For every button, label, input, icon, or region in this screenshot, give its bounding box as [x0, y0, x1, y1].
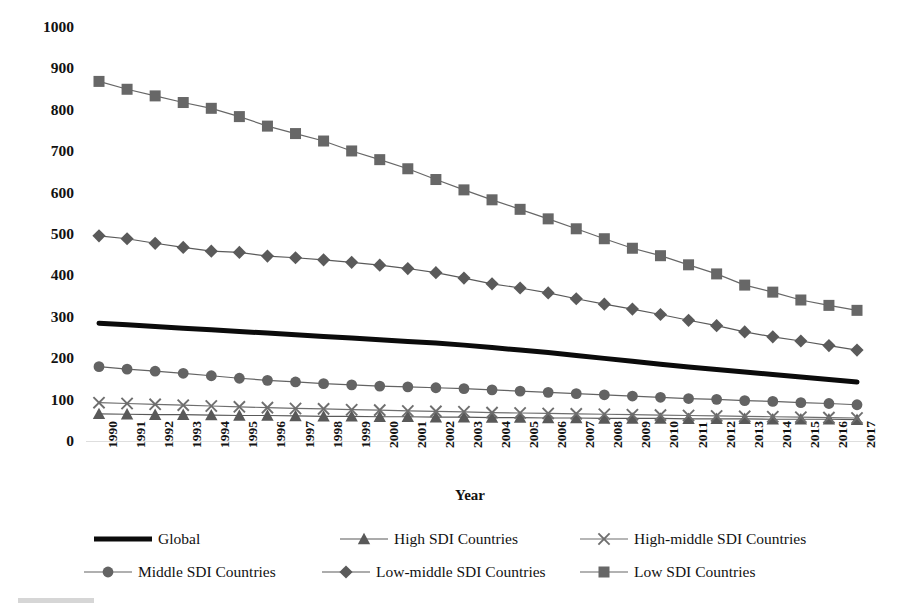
data-point-marker — [683, 393, 694, 404]
legend-label: Global — [158, 530, 200, 548]
x-axis-tick-2000: 2000 — [386, 421, 402, 448]
data-point-marker — [374, 381, 385, 392]
x-axis-tick-2001: 2001 — [414, 421, 430, 448]
y-axis-tick-1000: 1000 — [28, 18, 74, 36]
y-axis-tick-0: 0 — [28, 432, 74, 450]
x-axis-tick-2015: 2015 — [807, 421, 823, 448]
data-point-marker — [767, 287, 778, 298]
data-point-marker — [346, 145, 357, 156]
data-point-marker — [570, 292, 583, 305]
data-point-marker — [824, 398, 835, 409]
data-point-marker — [92, 229, 105, 242]
x-axis-tick-2017: 2017 — [863, 421, 879, 448]
legend-swatch — [320, 562, 372, 582]
x-axis-tick-2011: 2011 — [695, 422, 711, 448]
legend-swatch — [578, 562, 630, 582]
y-axis-tick-600: 600 — [28, 184, 74, 202]
x-axis-tick-1993: 1993 — [189, 421, 205, 448]
data-point-marker — [261, 250, 274, 263]
data-point-marker — [178, 97, 189, 108]
data-point-marker — [318, 136, 329, 147]
data-point-marker — [262, 121, 273, 132]
data-point-marker — [262, 375, 273, 386]
data-point-marker — [654, 308, 667, 321]
data-point-marker — [711, 268, 722, 279]
data-point-marker — [458, 184, 469, 195]
legend-item-middle-sdi-countries[interactable]: Middle SDI Countries — [82, 562, 276, 582]
x-axis-tick-1991: 1991 — [133, 421, 149, 448]
x-axis-tick-2008: 2008 — [610, 421, 626, 448]
data-point-marker — [514, 281, 527, 294]
x-axis-title: Year — [455, 487, 485, 504]
data-point-marker — [711, 394, 722, 405]
data-point-marker — [626, 303, 639, 316]
x-axis-tick-2007: 2007 — [582, 421, 598, 448]
x-axis-tick-2006: 2006 — [554, 421, 570, 448]
legend-item-high-sdi-countries[interactable]: High SDI Countries — [338, 529, 518, 549]
data-point-marker — [459, 383, 470, 394]
data-point-marker — [795, 294, 806, 305]
data-point-marker — [599, 567, 610, 578]
legend-swatch — [82, 562, 134, 582]
x-axis-tick-1994: 1994 — [217, 421, 233, 448]
y-axis-tick-700: 700 — [28, 142, 74, 160]
x-axis-tick-1992: 1992 — [161, 421, 177, 448]
x-axis-tick-1998: 1998 — [330, 421, 346, 448]
data-point-marker — [795, 397, 806, 408]
data-point-marker — [766, 330, 779, 343]
data-point-marker — [94, 361, 105, 372]
series-low-sdi-countries — [94, 76, 863, 316]
data-point-marker — [850, 343, 863, 356]
x-axis-tick-2005: 2005 — [526, 421, 542, 448]
y-axis-tick-400: 400 — [28, 266, 74, 284]
legend-item-low-sdi-countries[interactable]: Low SDI Countries — [578, 562, 755, 582]
data-point-marker — [515, 386, 526, 397]
data-point-marker — [599, 389, 610, 400]
x-axis-tick-2009: 2009 — [638, 421, 654, 448]
data-point-marker — [178, 368, 189, 379]
data-point-marker — [233, 246, 246, 259]
chart-svg — [86, 28, 876, 442]
data-point-marker — [823, 300, 834, 311]
data-point-marker — [120, 232, 133, 245]
legend-swatch — [92, 529, 154, 549]
data-point-marker — [543, 387, 554, 398]
chart-figure: Deaths per 100,000 Population 1000900800… — [0, 0, 914, 613]
x-axis-tick-2003: 2003 — [470, 421, 486, 448]
data-point-marker — [822, 339, 835, 352]
data-point-marker — [94, 76, 105, 87]
data-point-marker — [289, 251, 302, 264]
y-axis-tick-500: 500 — [28, 225, 74, 243]
x-axis-tick-2012: 2012 — [723, 421, 739, 448]
data-point-marker — [739, 280, 750, 291]
data-point-marker — [598, 298, 611, 311]
data-point-marker — [767, 396, 778, 407]
data-point-marker — [487, 384, 498, 395]
data-point-marker — [290, 377, 301, 388]
data-point-marker — [150, 366, 161, 377]
data-point-marker — [122, 84, 133, 95]
data-point-marker — [430, 382, 441, 393]
legend-swatch — [578, 529, 630, 549]
data-point-marker — [373, 259, 386, 272]
data-point-marker — [515, 204, 526, 215]
data-point-marker — [234, 373, 245, 384]
x-axis-tick-2016: 2016 — [835, 421, 851, 448]
data-point-marker — [710, 319, 723, 332]
data-point-marker — [627, 391, 638, 402]
legend-label: High SDI Countries — [394, 530, 518, 548]
legend-item-low-middle-sdi-countries[interactable]: Low-middle SDI Countries — [320, 562, 546, 582]
x-axis-tick-2014: 2014 — [779, 421, 795, 448]
legend-label: Low-middle SDI Countries — [376, 563, 546, 581]
data-point-marker — [429, 266, 442, 279]
x-axis-tick-2002: 2002 — [442, 421, 458, 448]
page-artifact — [18, 598, 94, 603]
data-point-marker — [205, 245, 218, 258]
data-point-marker — [655, 250, 666, 261]
legend-item-global[interactable]: Global — [92, 529, 200, 549]
legend-item-high-middle-sdi-countries[interactable]: High-middle SDI Countries — [578, 529, 806, 549]
data-point-marker — [122, 364, 133, 375]
series-line — [99, 81, 857, 310]
plot-area — [86, 28, 876, 442]
data-point-marker — [571, 223, 582, 234]
